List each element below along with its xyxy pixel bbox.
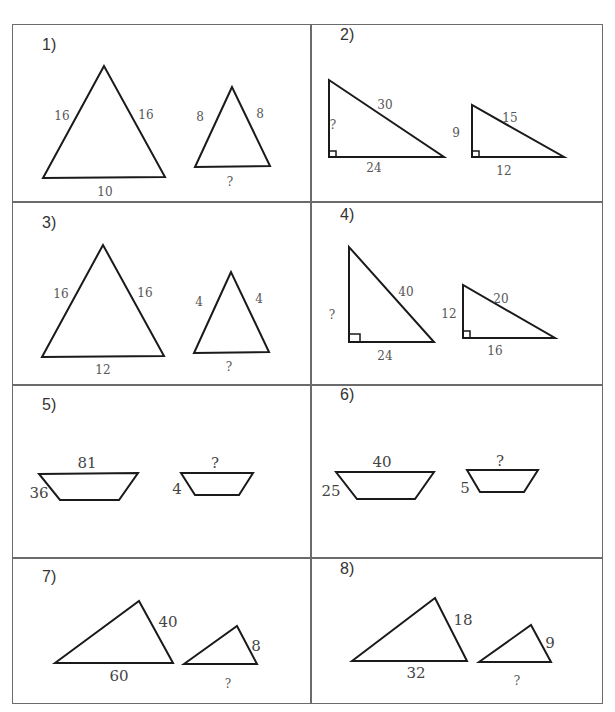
- p7-small-base-label: ?: [225, 677, 231, 691]
- p2-large-vertical-label: ?: [330, 118, 336, 132]
- p6-small-top-label: ?: [496, 452, 504, 470]
- p3-large-right-label: 16: [137, 286, 152, 300]
- p8-small-triangle: [479, 625, 551, 662]
- p2-small-right-triangle: [472, 105, 564, 157]
- p6-large-trapezoid: [336, 472, 434, 499]
- p1-small-triangle: [195, 87, 270, 167]
- p8-large-triangle: [352, 598, 467, 661]
- p3-large-base-label: 12: [95, 363, 110, 377]
- p2-small-vertical-label: 9: [452, 126, 460, 140]
- p3-small-left-label: 4: [195, 295, 203, 309]
- p6-large-top-label: 40: [372, 453, 391, 471]
- p3-small-triangle: [194, 272, 269, 353]
- p4-small-vertical-label: 12: [441, 307, 456, 321]
- p7-large-side-label: 40: [158, 613, 177, 631]
- p4-large-horizontal-label: 24: [377, 349, 392, 363]
- p5-large-top-label: 81: [77, 454, 96, 472]
- problem-number-1: 1): [42, 36, 56, 54]
- p2-small-hypotenuse-label: 15: [502, 111, 517, 125]
- p1-large-right-label: 16: [138, 108, 153, 122]
- p1-small-right-label: 8: [256, 107, 264, 121]
- p4-small-right-angle-mark: [463, 331, 470, 338]
- p2-small-horizontal-label: 12: [496, 164, 511, 178]
- p1-small-base-label: ?: [227, 175, 233, 189]
- p3-large-left-label: 16: [53, 287, 68, 301]
- problem-number-5: 5): [42, 396, 56, 414]
- p2-large-hypotenuse-label: 30: [377, 98, 392, 112]
- p4-small-right-triangle: [463, 285, 555, 338]
- p7-large-triangle: [55, 601, 173, 663]
- p5-small-trapezoid: [181, 473, 253, 495]
- problem-number-2: 2): [340, 26, 354, 44]
- p1-small-left-label: 8: [196, 110, 204, 124]
- p3-large-triangle: [42, 245, 164, 357]
- p5-small-top-label: ?: [211, 454, 219, 472]
- p4-large-right-angle-mark: [349, 334, 360, 342]
- p6-large-side-label: 25: [321, 482, 340, 500]
- p5-small-side-label: 4: [172, 480, 182, 498]
- problem-number-8: 8): [340, 560, 354, 578]
- p7-small-triangle: [184, 626, 257, 664]
- p3-small-base-label: ?: [226, 360, 232, 374]
- problem-number-6: 6): [340, 386, 354, 404]
- p5-large-side-label: 36: [29, 484, 48, 502]
- p4-small-hypotenuse-label: 20: [493, 292, 508, 306]
- p4-large-hypotenuse-label: 40: [398, 285, 413, 299]
- p6-small-side-label: 5: [460, 479, 470, 497]
- problem-number-7: 7): [42, 568, 56, 586]
- p4-large-right-triangle: [349, 247, 434, 342]
- p5-large-trapezoid: [39, 473, 138, 500]
- p1-large-base-label: 10: [97, 185, 112, 199]
- p8-small-side-label: 9: [545, 634, 555, 652]
- p8-large-side-label: 18: [453, 611, 472, 629]
- p8-small-base-label: ?: [514, 674, 520, 688]
- p6-small-trapezoid: [467, 470, 538, 492]
- problem-number-3: 3): [42, 214, 56, 232]
- p4-large-vertical-label: ?: [329, 308, 335, 322]
- p7-large-base-label: 60: [109, 667, 128, 685]
- p2-large-right-triangle: [329, 80, 444, 157]
- p1-large-left-label: 16: [54, 109, 69, 123]
- p3-small-right-label: 4: [255, 292, 263, 306]
- p2-large-horizontal-label: 24: [366, 161, 381, 175]
- p8-large-base-label: 32: [406, 664, 425, 682]
- problem-number-4: 4): [340, 206, 354, 224]
- p4-small-horizontal-label: 16: [487, 344, 502, 358]
- p7-small-side-label: 8: [251, 637, 261, 655]
- figures: [0, 0, 615, 712]
